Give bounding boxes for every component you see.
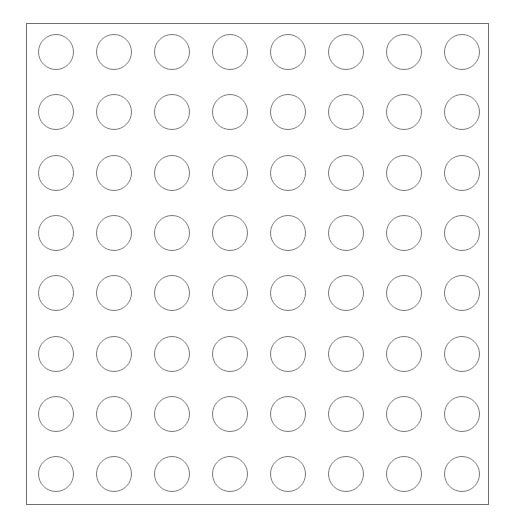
circle-r2-c8 — [444, 94, 480, 130]
circle-r5-c4 — [212, 275, 248, 311]
circle-r2-c5 — [270, 94, 306, 130]
circle-r3-c2 — [96, 155, 132, 191]
circle-r2-c4 — [212, 94, 248, 130]
circle-r5-c6 — [328, 275, 364, 311]
circle-r3-c6 — [328, 155, 364, 191]
circle-r4-c8 — [444, 215, 480, 251]
circle-r4-c3 — [154, 215, 190, 251]
circle-r6-c5 — [270, 336, 306, 372]
circle-r7-c3 — [154, 396, 190, 432]
circle-r1-c5 — [270, 34, 306, 70]
circle-r7-c4 — [212, 396, 248, 432]
circle-r6-c7 — [386, 336, 422, 372]
circle-r8-c6 — [328, 456, 364, 492]
circle-r5-c2 — [96, 275, 132, 311]
circle-r7-c8 — [444, 396, 480, 432]
circle-r1-c7 — [386, 34, 422, 70]
circle-r5-c1 — [38, 275, 74, 311]
circle-r6-c8 — [444, 336, 480, 372]
circle-r8-c1 — [38, 456, 74, 492]
circle-r7-c5 — [270, 396, 306, 432]
circle-r3-c3 — [154, 155, 190, 191]
circle-r5-c5 — [270, 275, 306, 311]
circle-r8-c2 — [96, 456, 132, 492]
circle-r3-c5 — [270, 155, 306, 191]
circle-r2-c6 — [328, 94, 364, 130]
circle-r5-c8 — [444, 275, 480, 311]
circle-r8-c4 — [212, 456, 248, 492]
circle-r6-c6 — [328, 336, 364, 372]
circle-r1-c1 — [38, 34, 74, 70]
circle-r8-c7 — [386, 456, 422, 492]
circle-r7-c6 — [328, 396, 364, 432]
circle-r3-c1 — [38, 155, 74, 191]
circle-r8-c5 — [270, 456, 306, 492]
circle-r4-c6 — [328, 215, 364, 251]
circle-r4-c7 — [386, 215, 422, 251]
circle-r5-c3 — [154, 275, 190, 311]
circle-r6-c3 — [154, 336, 190, 372]
circle-r6-c1 — [38, 336, 74, 372]
circle-r5-c7 — [386, 275, 422, 311]
circle-r7-c7 — [386, 396, 422, 432]
circle-r1-c8 — [444, 34, 480, 70]
circle-r1-c2 — [96, 34, 132, 70]
circle-r1-c6 — [328, 34, 364, 70]
circle-grid — [0, 0, 511, 523]
circle-r2-c3 — [154, 94, 190, 130]
circle-r6-c2 — [96, 336, 132, 372]
circle-r4-c1 — [38, 215, 74, 251]
circle-r2-c7 — [386, 94, 422, 130]
circle-r4-c5 — [270, 215, 306, 251]
circle-r7-c1 — [38, 396, 74, 432]
circle-r4-c4 — [212, 215, 248, 251]
circle-r2-c2 — [96, 94, 132, 130]
circle-r1-c3 — [154, 34, 190, 70]
circle-r8-c3 — [154, 456, 190, 492]
circle-r3-c8 — [444, 155, 480, 191]
circle-r6-c4 — [212, 336, 248, 372]
circle-r3-c4 — [212, 155, 248, 191]
circle-r3-c7 — [386, 155, 422, 191]
circle-r8-c8 — [444, 456, 480, 492]
circle-r4-c2 — [96, 215, 132, 251]
circle-r2-c1 — [38, 94, 74, 130]
circle-r1-c4 — [212, 34, 248, 70]
circle-r7-c2 — [96, 396, 132, 432]
